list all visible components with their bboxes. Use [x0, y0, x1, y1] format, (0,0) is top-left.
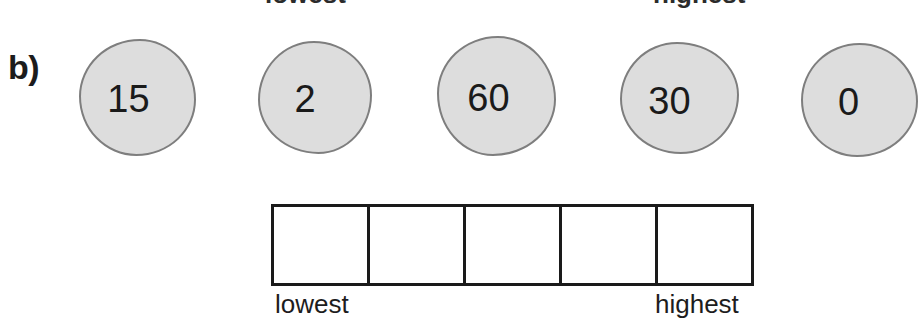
number-blob-value: 60: [467, 79, 509, 117]
number-blob[interactable]: 15: [79, 39, 196, 156]
ranking-grid-cell[interactable]: [370, 207, 466, 283]
ranking-grid-cell[interactable]: [658, 207, 751, 283]
number-blob-value: 15: [107, 80, 149, 118]
number-blob[interactable]: 2: [258, 41, 372, 154]
number-blob-value: 2: [294, 80, 315, 118]
ranking-grid: [271, 204, 754, 286]
ranking-grid-cell[interactable]: [562, 207, 658, 283]
ranking-grid-cell[interactable]: [466, 207, 562, 283]
grid-caption-highest: highest: [655, 291, 739, 317]
top-caption-lowest: lowest: [265, 0, 346, 7]
number-blob-value: 0: [838, 83, 859, 121]
worksheet-panel: lowest highest b) 15 2 60 30 0 lowest hi…: [0, 0, 920, 322]
part-label: b): [8, 48, 39, 87]
number-blob[interactable]: 30: [620, 42, 739, 154]
top-caption-highest: highest: [653, 0, 745, 7]
number-blob[interactable]: 0: [801, 43, 918, 157]
grid-caption-lowest: lowest: [275, 291, 349, 317]
number-blob[interactable]: 60: [437, 36, 556, 156]
ranking-grid-cell[interactable]: [274, 207, 370, 283]
number-blob-value: 30: [648, 82, 690, 120]
